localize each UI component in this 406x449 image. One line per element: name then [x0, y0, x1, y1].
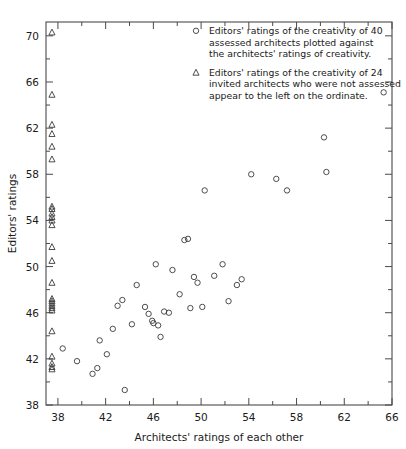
- data-point-circle: [226, 298, 231, 303]
- data-point-circle: [110, 326, 115, 331]
- data-point-circle: [234, 282, 239, 287]
- x-tick-label: 66: [385, 411, 399, 423]
- data-point-circle: [134, 282, 139, 287]
- y-axis-title: Editors' ratings: [6, 174, 18, 253]
- x-tick-label: 54: [242, 411, 256, 423]
- data-point-circle: [170, 267, 175, 272]
- x-tick-label: 42: [99, 411, 112, 423]
- data-point-triangle: [49, 279, 55, 285]
- data-point-triangle: [49, 353, 55, 359]
- data-point-circle: [200, 304, 205, 309]
- legend-label-assessed: Editors' ratings of the creativity of 40: [209, 25, 383, 36]
- data-point-circle: [177, 292, 182, 297]
- data-point-circle: [185, 236, 190, 241]
- x-tick-label: 62: [338, 411, 351, 423]
- y-tick-label: 38: [26, 399, 39, 411]
- data-point-circle: [146, 311, 151, 316]
- data-point-circle: [104, 352, 109, 357]
- data-point-circle: [220, 262, 225, 267]
- data-point-circle: [153, 262, 158, 267]
- data-point-circle: [115, 303, 120, 308]
- x-tick-label: 38: [51, 411, 64, 423]
- data-point-circle: [120, 297, 125, 302]
- scatter-plot-figure: 3842465054586266384246505458626670Archit…: [0, 0, 406, 449]
- data-point-circle: [249, 172, 254, 177]
- y-tick-label: 46: [26, 307, 40, 319]
- y-tick-label: 66: [26, 76, 40, 88]
- data-point-triangle: [49, 328, 55, 334]
- data-point-circle: [74, 358, 79, 363]
- data-point-circle: [191, 274, 196, 279]
- x-tick-label: 46: [147, 411, 161, 423]
- data-point-triangle: [49, 244, 55, 250]
- data-point-circle: [97, 338, 102, 343]
- x-tick-label: 58: [290, 411, 303, 423]
- data-point-circle: [284, 188, 289, 193]
- data-point-circle: [202, 188, 207, 193]
- data-point-circle: [321, 135, 326, 140]
- data-point-circle: [182, 237, 187, 242]
- data-point-triangle: [49, 257, 55, 263]
- data-point-circle: [142, 304, 147, 309]
- x-axis-title: Architects' ratings of each other: [135, 431, 304, 443]
- y-tick-label: 50: [26, 261, 39, 273]
- data-point-circle: [274, 176, 279, 181]
- data-point-circle: [239, 277, 244, 282]
- legend-label-assessed: assessed architects plotted against: [209, 37, 374, 48]
- legend-label-invited: appear to the left on the ordinate.: [209, 90, 368, 101]
- data-point-triangle: [49, 156, 55, 162]
- data-point-circle: [155, 323, 160, 328]
- legend-label-invited: invited architects who were not assessed: [209, 78, 401, 89]
- data-point-triangle: [49, 121, 55, 127]
- y-tick-label: 58: [26, 168, 39, 180]
- y-tick-label: 42: [26, 353, 39, 365]
- data-point-circle: [381, 90, 386, 95]
- legend-marker-triangle: [193, 69, 199, 75]
- data-point-circle: [212, 273, 217, 278]
- y-tick-label: 62: [26, 122, 39, 134]
- data-point-circle: [324, 169, 329, 174]
- y-tick-label: 54: [26, 214, 40, 226]
- chart-canvas: 3842465054586266384246505458626670Archit…: [0, 0, 406, 449]
- data-point-circle: [60, 346, 65, 351]
- data-point-triangle: [49, 91, 55, 97]
- y-tick-label: 70: [26, 30, 39, 42]
- data-point-circle: [158, 334, 163, 339]
- data-point-circle: [188, 305, 193, 310]
- data-point-circle: [95, 365, 100, 370]
- x-tick-label: 50: [194, 411, 207, 423]
- data-point-circle: [122, 387, 127, 392]
- legend-label-assessed: the architects' ratings of creativity.: [209, 48, 371, 59]
- legend-marker-circle: [193, 28, 198, 33]
- data-point-triangle: [49, 131, 55, 137]
- data-point-circle: [195, 280, 200, 285]
- data-point-circle: [90, 371, 95, 376]
- legend-label-invited: Editors' ratings of the creativity of 24: [209, 67, 383, 78]
- data-point-triangle: [49, 143, 55, 149]
- data-point-circle: [129, 322, 134, 327]
- data-point-triangle: [49, 29, 55, 35]
